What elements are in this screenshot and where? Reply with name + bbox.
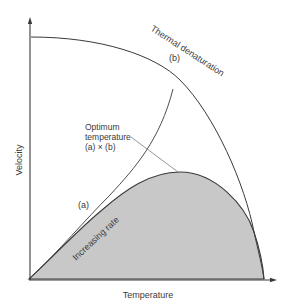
x-axis-label: Temperature xyxy=(123,290,174,300)
y-axis-label: Velocity xyxy=(14,144,24,176)
optimum-label-line3: (a) × (b) xyxy=(85,142,116,152)
optimum-label-line1: Optimum xyxy=(85,122,119,132)
thermal-denaturation-label: Thermal denaturation xyxy=(149,23,226,78)
product-curve-shaded-area xyxy=(29,172,264,279)
optimum-pointer-line xyxy=(131,137,178,172)
y-axis-arrow-icon xyxy=(28,17,32,24)
curve-a-id-label: (a) xyxy=(78,200,89,210)
optimum-label-line2: temperature xyxy=(85,132,131,142)
x-axis-arrow-icon xyxy=(270,278,277,282)
enzyme-temperature-diagram: Temperature Velocity Thermal denaturatio… xyxy=(0,0,291,308)
curve-b-id-label: (b) xyxy=(169,53,180,63)
